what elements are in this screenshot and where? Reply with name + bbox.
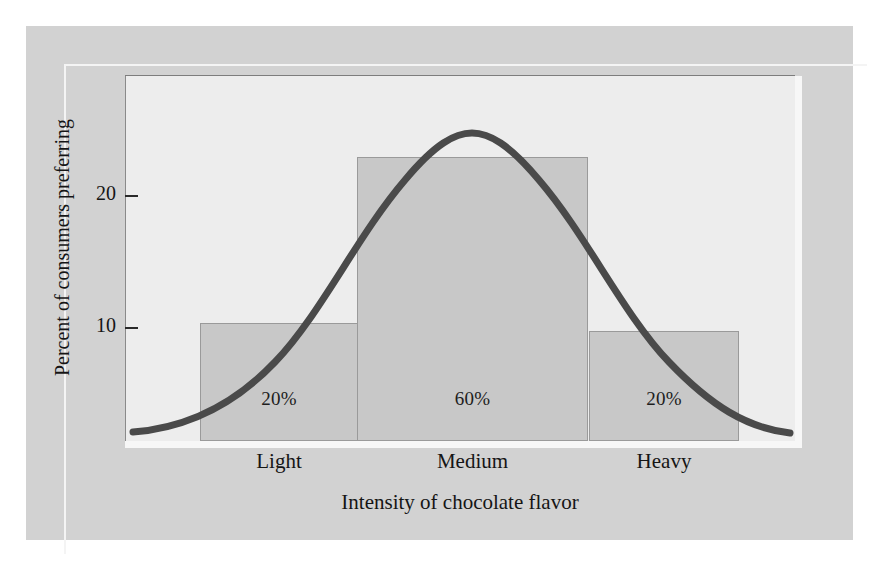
y-tick-label-10: 10 xyxy=(72,314,116,337)
y-axis-title: Percent of consumers preferring xyxy=(51,98,74,398)
x-category-medium: Medium xyxy=(357,449,588,474)
x-axis-title: Intensity of chocolate flavor xyxy=(125,490,795,515)
y-tick-label-20: 20 xyxy=(72,182,116,205)
chart-figure: 20% 60% 20% 20 10 Percent of consumers p… xyxy=(0,0,892,572)
normal-curve xyxy=(125,76,795,441)
plot-right-margin xyxy=(795,76,802,448)
x-category-light: Light xyxy=(200,449,358,474)
y-tick-mark-10 xyxy=(125,327,138,329)
y-tick-mark-20 xyxy=(125,195,138,197)
plot-bottom-margin xyxy=(125,441,802,448)
x-category-heavy: Heavy xyxy=(589,449,739,474)
